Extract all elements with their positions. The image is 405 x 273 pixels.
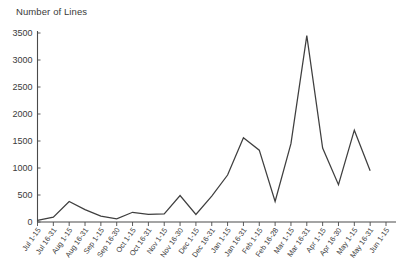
y-axis-tick-label: 1500 — [12, 136, 32, 146]
y-axis-tick-labels: 0500100015002000250030003500 — [12, 28, 40, 227]
data-series-line — [38, 36, 371, 221]
y-axis-tick-label: 3500 — [12, 28, 32, 38]
y-axis-tick-label: 1000 — [12, 163, 32, 173]
chart-container: Number of Lines 050010001500200025003000… — [0, 0, 405, 273]
y-axis-tick-label: 3000 — [12, 55, 32, 65]
line-chart-plot: 0500100015002000250030003500 Jul 1-15Jul… — [0, 0, 405, 273]
series-line-number-of-lines — [38, 36, 371, 221]
x-axis-tick-labels: Jul 1-15Jul 16-31Aug 1-15Aug 16-31Sep 1-… — [20, 226, 391, 260]
y-axis-tick-label: 500 — [17, 190, 32, 200]
x-axis-tick-marks — [38, 222, 387, 226]
y-axis-tick-label: 2000 — [12, 109, 32, 119]
y-axis-tick-label: 2500 — [12, 82, 32, 92]
y-axis-tick-label: 0 — [27, 217, 32, 227]
